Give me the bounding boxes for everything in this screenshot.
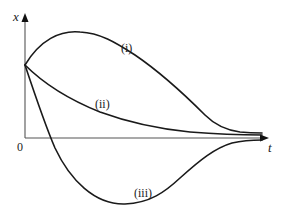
curve-ii-path bbox=[25, 65, 262, 135]
y-axis-arrow-icon bbox=[22, 13, 29, 22]
y-axis-label: x bbox=[12, 9, 19, 24]
curve-ii: (ii) bbox=[25, 65, 262, 135]
x-axis-label: t bbox=[268, 140, 272, 155]
curve-i-path bbox=[25, 32, 262, 133]
solution-curves-diagram: x t 0 (i) (ii) (iii) bbox=[0, 0, 292, 214]
curve-i: (i) bbox=[25, 32, 262, 133]
curve-iii-label: (iii) bbox=[134, 186, 152, 200]
curve-ii-label: (ii) bbox=[95, 97, 110, 111]
origin-label: 0 bbox=[17, 140, 23, 154]
axes: x t 0 bbox=[12, 9, 272, 155]
curve-i-label: (i) bbox=[121, 41, 132, 55]
